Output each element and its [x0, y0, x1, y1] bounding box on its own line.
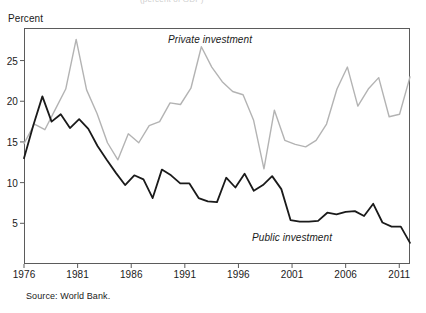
x-tick-label: 1991	[174, 269, 197, 280]
x-tick-label: 2006	[334, 269, 357, 280]
y-axis-ticks	[20, 61, 24, 224]
x-tick-label: 1976	[13, 269, 36, 280]
public-investment-line	[24, 96, 410, 242]
source-note: Source: World Bank.	[26, 291, 110, 301]
x-tick-label: 1981	[66, 269, 89, 280]
x-axis-ticks	[24, 264, 399, 268]
chart-figure: (percent of GDP) Percent 510152025 19761…	[0, 0, 426, 313]
x-tick-label: 2001	[281, 269, 304, 280]
y-tick-label: 15	[0, 136, 18, 147]
x-tick-label: 2011	[388, 269, 410, 280]
y-tick-label: 25	[0, 55, 18, 66]
y-tick-label: 10	[0, 177, 18, 188]
chart-canvas	[0, 0, 426, 313]
private-investment-line	[24, 39, 410, 168]
x-tick-label: 1996	[227, 269, 250, 280]
private-investment-label: Private investment	[168, 34, 252, 45]
y-tick-label: 20	[0, 96, 18, 107]
y-tick-label: 5	[0, 218, 18, 229]
public-investment-label: Public investment	[252, 232, 332, 243]
x-tick-label: 1986	[120, 269, 143, 280]
